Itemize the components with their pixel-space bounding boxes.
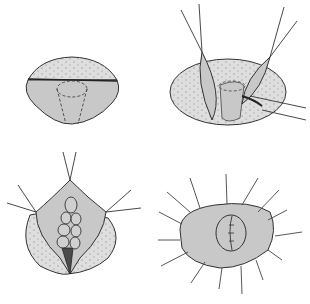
panel-bottom-right (158, 174, 302, 294)
panel-bottom-left (7, 152, 141, 274)
panel-top-left (26, 57, 119, 124)
surgical-diagram (0, 0, 310, 304)
panel-top-right (170, 4, 306, 125)
